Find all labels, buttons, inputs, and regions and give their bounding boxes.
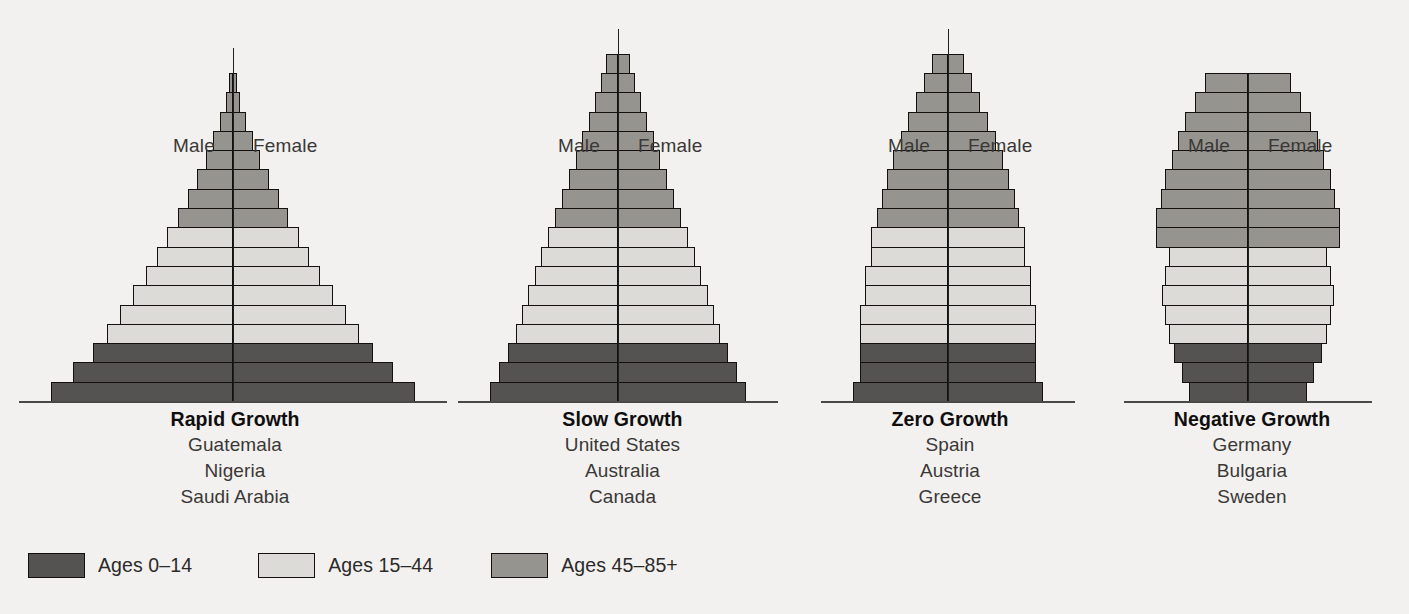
- pyramid-band-male: [887, 169, 948, 189]
- pyramid-band-female: [618, 208, 681, 228]
- pyramid-band-male: [860, 343, 948, 363]
- pyramid-plot: MaleFemale: [790, 0, 1110, 402]
- pyramid-band-male: [916, 92, 948, 112]
- legend-swatch-older: [491, 553, 548, 578]
- pyramid-group: MaleFemaleRapid GrowthGuatemalaNigeriaSa…: [0, 0, 1409, 534]
- pyramid-band-male: [1165, 305, 1248, 325]
- pyramid-band-female: [618, 362, 737, 382]
- pyramid-band-male: [528, 285, 618, 305]
- baseline-axis: [458, 401, 778, 403]
- pyramid-band-male: [606, 54, 618, 74]
- label-female: Female: [1268, 135, 1333, 157]
- pyramid-rapid-growth: MaleFemaleRapid GrowthGuatemalaNigeriaSa…: [0, 0, 470, 534]
- pyramid-band-female: [233, 305, 346, 325]
- pyramid-band-male: [871, 247, 948, 267]
- pyramid-band-male: [1205, 73, 1248, 93]
- legend-item-older: Ages 45–85+: [491, 553, 678, 578]
- pyramid-band-male: [73, 362, 233, 382]
- pyramid-band-female: [948, 362, 1036, 382]
- population-pyramid-figure: MaleFemaleRapid GrowthGuatemalaNigeriaSa…: [0, 0, 1409, 614]
- pyramid-band-male: [120, 305, 233, 325]
- pyramid-band-female: [618, 305, 714, 325]
- pyramid-title: Zero Growth: [790, 406, 1110, 432]
- baseline-axis: [19, 401, 447, 403]
- pyramid-band-female: [948, 112, 988, 132]
- pyramid-band-male: [871, 227, 948, 247]
- label-female: Female: [968, 135, 1033, 157]
- pyramid-band-male: [197, 169, 233, 189]
- pyramid-band-male: [522, 305, 618, 325]
- legend-item-middle: Ages 15–44: [258, 553, 433, 578]
- pyramid-band-male: [541, 247, 618, 267]
- pyramid-band-female: [618, 227, 688, 247]
- pyramid-band-male: [167, 227, 233, 247]
- pyramid-band-female: [948, 54, 964, 74]
- pyramid-band-female: [948, 208, 1019, 228]
- pyramid-band-female: [1248, 362, 1314, 382]
- pyramid-band-female: [233, 189, 279, 209]
- pyramid-country: Germany: [1095, 432, 1409, 458]
- pyramid-band-female: [233, 169, 269, 189]
- center-axis-line: [233, 48, 234, 402]
- pyramid-caption: Negative GrowthGermanyBulgariaSweden: [1095, 406, 1409, 510]
- pyramid-band-female: [618, 324, 720, 344]
- pyramid-band-female: [1248, 169, 1331, 189]
- pyramid-band-male: [1156, 208, 1248, 228]
- pyramid-caption: Slow GrowthUnited StatesAustraliaCanada: [455, 406, 790, 510]
- pyramid-band-male: [924, 73, 948, 93]
- pyramid-band-male: [589, 112, 618, 132]
- pyramid-band-female: [233, 324, 359, 344]
- chart-legend: Ages 0–14Ages 15–44Ages 45–85+: [28, 553, 678, 578]
- pyramid-band-female: [948, 324, 1036, 344]
- pyramid-band-female: [233, 92, 240, 112]
- pyramid-band-female: [618, 382, 746, 402]
- pyramid-slow-growth: MaleFemaleSlow GrowthUnited StatesAustra…: [455, 0, 790, 534]
- pyramid-country: Bulgaria: [1095, 458, 1409, 484]
- legend-swatch-middle: [258, 553, 315, 578]
- pyramid-band-male: [1165, 266, 1248, 286]
- pyramid-band-male: [516, 324, 618, 344]
- pyramid-band-female: [233, 247, 309, 267]
- pyramid-band-female: [618, 169, 667, 189]
- pyramid-band-female: [1248, 227, 1340, 247]
- pyramid-band-male: [932, 54, 948, 74]
- label-male: Male: [173, 135, 215, 157]
- pyramid-band-female: [1248, 247, 1327, 267]
- pyramid-band-male: [226, 92, 233, 112]
- pyramid-country: Australia: [455, 458, 790, 484]
- pyramid-country: Sweden: [1095, 484, 1409, 510]
- pyramid-country: Guatemala: [0, 432, 470, 458]
- pyramid-band-female: [618, 112, 647, 132]
- pyramid-band-male: [213, 131, 233, 151]
- pyramid-negative-growth: MaleFemaleNegative GrowthGermanyBulgaria…: [1095, 0, 1409, 534]
- pyramid-caption: Rapid GrowthGuatemalaNigeriaSaudi Arabia: [0, 406, 470, 510]
- pyramid-band-male: [220, 112, 233, 132]
- pyramid-band-female: [948, 92, 980, 112]
- baseline-axis: [821, 401, 1075, 403]
- pyramid-band-male: [865, 266, 948, 286]
- pyramid-band-female: [618, 92, 641, 112]
- pyramid-band-female: [233, 266, 320, 286]
- pyramid-band-male: [499, 362, 618, 382]
- legend-label-older: Ages 45–85+: [561, 554, 678, 577]
- pyramid-band-female: [1248, 305, 1331, 325]
- pyramid-band-female: [1248, 92, 1301, 112]
- pyramid-zero-growth: MaleFemaleZero GrowthSpainAustriaGreece: [790, 0, 1110, 534]
- pyramid-band-female: [233, 382, 415, 402]
- label-male: Male: [558, 135, 600, 157]
- pyramid-country: Spain: [790, 432, 1110, 458]
- pyramid-band-female: [948, 247, 1025, 267]
- pyramid-band-male: [601, 73, 618, 93]
- pyramid-band-female: [1248, 324, 1327, 344]
- pyramid-bars: [0, 22, 470, 402]
- label-female: Female: [638, 135, 703, 157]
- pyramid-band-male: [508, 343, 618, 363]
- pyramid-band-male: [1169, 324, 1248, 344]
- label-female: Female: [253, 135, 318, 157]
- pyramid-plot: MaleFemale: [1095, 0, 1409, 402]
- pyramid-country: Austria: [790, 458, 1110, 484]
- center-axis-line: [948, 29, 949, 402]
- pyramid-band-female: [233, 112, 246, 132]
- pyramid-band-female: [1248, 382, 1307, 402]
- pyramid-plot: MaleFemale: [455, 0, 790, 402]
